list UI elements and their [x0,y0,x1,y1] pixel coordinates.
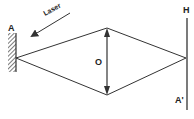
label-a: A [8,23,15,33]
beam-upper-left [16,28,107,58]
beam-upper-right [107,28,186,58]
beam-lower-right [107,58,186,95]
label-o: O [95,57,102,67]
label-h: H [183,5,190,15]
holography-diagram: A Laser O H A' [0,0,194,119]
laser-arrow [32,13,70,36]
arrow-up-icon [104,28,110,37]
label-a-prime: A' [175,95,184,105]
beam-lower-left [16,58,107,95]
label-laser: Laser [42,2,62,17]
object-arrow [104,28,110,95]
mirror-a [8,33,16,72]
